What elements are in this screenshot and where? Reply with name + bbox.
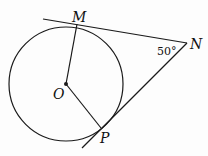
center-point	[64, 82, 68, 86]
label-n: N	[190, 37, 202, 51]
tangent-line-np	[82, 43, 187, 148]
geometry-diagram: M N O P 50°	[0, 0, 208, 156]
radius-om	[66, 24, 77, 84]
label-p: P	[100, 131, 109, 145]
label-m: M	[72, 10, 86, 24]
radius-op	[66, 84, 101, 128]
tangent-line-mn	[43, 19, 187, 43]
label-o: O	[53, 87, 64, 101]
angle-label-n: 50°	[157, 46, 177, 57]
